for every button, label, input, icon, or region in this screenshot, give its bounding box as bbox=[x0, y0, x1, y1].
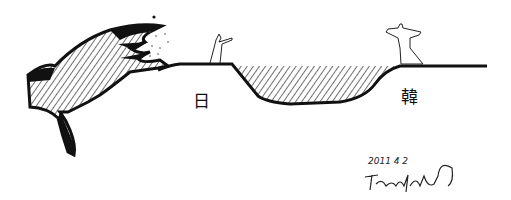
signature bbox=[0, 0, 511, 200]
